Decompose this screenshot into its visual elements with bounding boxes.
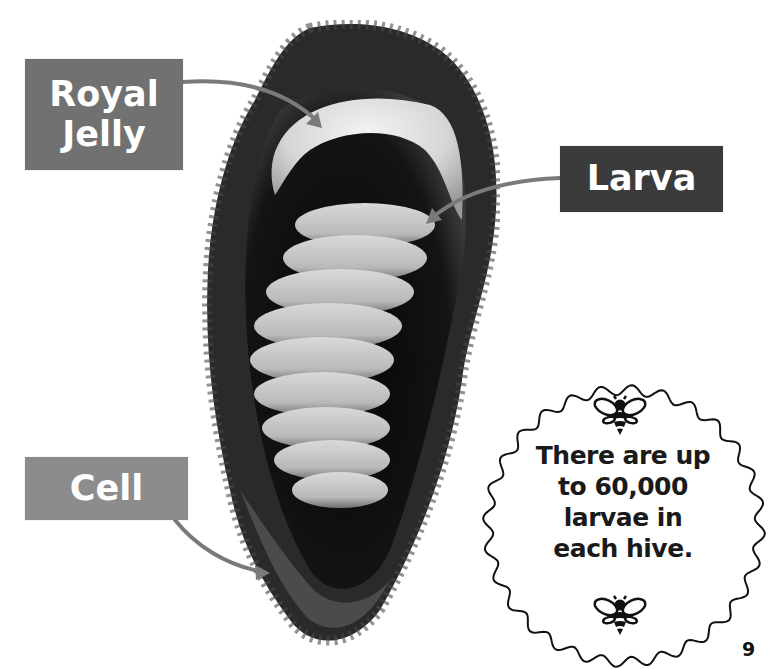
fact-text: There are up to 60,000 larvae in each hi… — [510, 440, 736, 564]
fact-line: There are up — [510, 440, 736, 471]
royal-jelly-label: Royal Jelly — [25, 59, 183, 170]
cell-label-text: Cell — [70, 469, 143, 508]
fact-line: each hive. — [510, 533, 736, 564]
bee-icon — [590, 595, 650, 635]
larva-label-text: Larva — [587, 159, 697, 198]
fact-line: to 60,000 — [510, 471, 736, 502]
larva-cell-photo — [200, 20, 500, 650]
larva-label: Larva — [560, 146, 723, 212]
cell-label: Cell — [25, 457, 188, 520]
royal-jelly-label-text: Royal Jelly — [44, 75, 164, 153]
bee-icon — [590, 395, 650, 435]
page-number: 9 — [742, 638, 755, 660]
fact-line: larvae in — [510, 502, 736, 533]
